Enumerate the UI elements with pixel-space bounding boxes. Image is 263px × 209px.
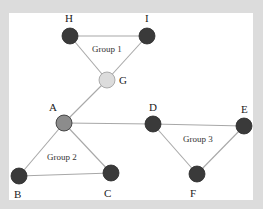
node-label-g: G (119, 74, 127, 86)
node-g (99, 72, 115, 88)
node-h (62, 28, 78, 44)
edge-i-g (107, 36, 147, 80)
edge-a-b (19, 123, 64, 176)
labels-layer: HIGADEBCF (14, 12, 248, 200)
node-label-d: D (149, 101, 157, 113)
node-c (103, 165, 119, 181)
edge-h-g (70, 36, 107, 80)
group-labels-layer: Group 1Group 2Group 3 (47, 44, 213, 162)
node-a (56, 115, 72, 131)
edge-g-a (64, 80, 107, 123)
network-graph: HIGADEBCF Group 1Group 2Group 3 (0, 0, 263, 209)
node-label-e: E (241, 103, 248, 115)
group-3-label: Group 3 (183, 134, 213, 144)
node-label-b: B (14, 188, 21, 200)
node-e (236, 118, 252, 134)
node-label-h: H (65, 12, 73, 24)
edge-a-d (64, 123, 153, 124)
node-i (139, 28, 155, 44)
node-f (189, 166, 205, 182)
node-b (11, 168, 27, 184)
edge-a-c (64, 123, 111, 173)
edge-d-f (153, 124, 197, 174)
node-label-f: F (190, 187, 196, 199)
node-label-c: C (104, 187, 111, 199)
edge-d-e (153, 124, 244, 126)
node-d (145, 116, 161, 132)
group-1-label: Group 1 (92, 44, 122, 54)
node-label-i: I (145, 12, 149, 24)
group-2-label: Group 2 (47, 152, 77, 162)
edge-b-c (19, 173, 111, 176)
node-label-a: A (49, 101, 57, 113)
